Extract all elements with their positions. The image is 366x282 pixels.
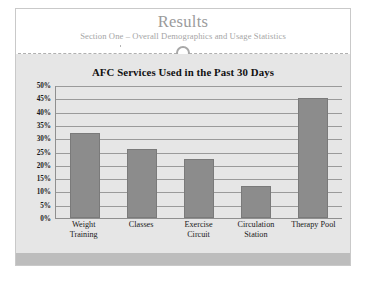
y-tick-label: 20% xyxy=(37,162,51,169)
chart-bar[interactable] xyxy=(127,149,157,218)
slide-subtitle: Section One – Overall Demographics and U… xyxy=(16,31,350,41)
bar-slot xyxy=(228,86,285,218)
x-tick-label-line: Classes xyxy=(112,220,169,230)
y-tick-label: 40% xyxy=(37,109,51,116)
y-tick-label: 0% xyxy=(40,216,51,223)
slide-body: AFC Services Used in the Past 30 Days 50… xyxy=(16,54,350,265)
y-tick-label: 45% xyxy=(37,96,51,103)
x-tick-label-line: Training xyxy=(55,230,112,240)
y-tick-label: 30% xyxy=(37,136,51,143)
y-tick-label: 35% xyxy=(37,122,51,129)
x-tick-label: WeightTraining xyxy=(55,220,112,240)
chart-bar[interactable] xyxy=(241,186,271,218)
y-tick-label: 5% xyxy=(40,202,51,209)
slide-footer-bar xyxy=(16,253,350,265)
y-tick-label: 50% xyxy=(37,83,51,90)
bar-slot xyxy=(56,86,113,218)
y-tick-label: 25% xyxy=(37,149,51,156)
y-axis: 50%45%40%35%30%25%20%15%10%5%0% xyxy=(28,86,54,219)
bar-slot xyxy=(113,86,170,218)
chart-bar[interactable] xyxy=(70,133,100,218)
x-axis: WeightTrainingClassesExerciseCircuitCirc… xyxy=(55,220,342,240)
header-tick-mark xyxy=(120,45,121,47)
x-tick-label: Therapy Pool xyxy=(285,220,342,240)
bar-slot xyxy=(285,86,342,218)
bar-slot xyxy=(170,86,227,218)
bars-layer xyxy=(56,86,342,218)
x-tick-label-line: Circuit xyxy=(170,230,227,240)
chart-plot-area xyxy=(55,86,342,219)
chart-title: AFC Services Used in the Past 30 Days xyxy=(16,66,350,78)
x-tick-label-line: Station xyxy=(227,230,284,240)
x-tick-label-line: Weight xyxy=(55,220,112,230)
x-tick-label: ExerciseCircuit xyxy=(170,220,227,240)
x-tick-label: Classes xyxy=(112,220,169,240)
x-tick-label-line: Exercise xyxy=(170,220,227,230)
y-tick-label: 15% xyxy=(37,176,51,183)
y-tick-label: 10% xyxy=(37,189,51,196)
chart-plot-wrapper: 50%45%40%35%30%25%20%15%10%5%0% xyxy=(28,86,342,219)
presentation-slide: Results Section One – Overall Demographi… xyxy=(15,8,351,266)
x-tick-label-line: Therapy Pool xyxy=(285,220,342,230)
page-title: Results xyxy=(16,13,350,30)
chart-bar[interactable] xyxy=(184,159,214,218)
bar-chart: AFC Services Used in the Past 30 Days 50… xyxy=(16,54,350,251)
chart-bar[interactable] xyxy=(298,98,328,218)
x-tick-label: CirculationStation xyxy=(227,220,284,240)
x-tick-label-line: Circulation xyxy=(227,220,284,230)
